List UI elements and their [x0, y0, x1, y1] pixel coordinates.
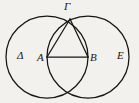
- segment-b-gamma: [70, 19, 88, 57]
- center-label-a: A: [37, 52, 44, 63]
- center-label-b: B: [90, 52, 97, 63]
- region-label-e: E: [117, 50, 124, 61]
- region-label-delta: Δ: [17, 50, 23, 61]
- vertex-label-gamma: Γ: [64, 1, 70, 12]
- geometry-figure: Γ Δ A B E: [0, 0, 139, 103]
- segment-a-gamma: [47, 19, 70, 57]
